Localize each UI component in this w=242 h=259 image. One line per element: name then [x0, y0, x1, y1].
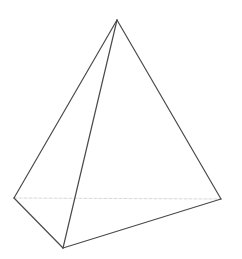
edge-bottom-right — [63, 199, 221, 248]
edges-group — [14, 20, 221, 248]
edge-apex-bottom — [63, 20, 117, 248]
edge-apex-right — [117, 20, 221, 199]
hidden-edge-left-right — [14, 198, 221, 199]
edge-apex-left — [14, 20, 117, 198]
tetrahedron-drawing — [0, 0, 242, 259]
edge-left-bottom — [14, 198, 63, 248]
diagram-canvas — [0, 0, 242, 259]
